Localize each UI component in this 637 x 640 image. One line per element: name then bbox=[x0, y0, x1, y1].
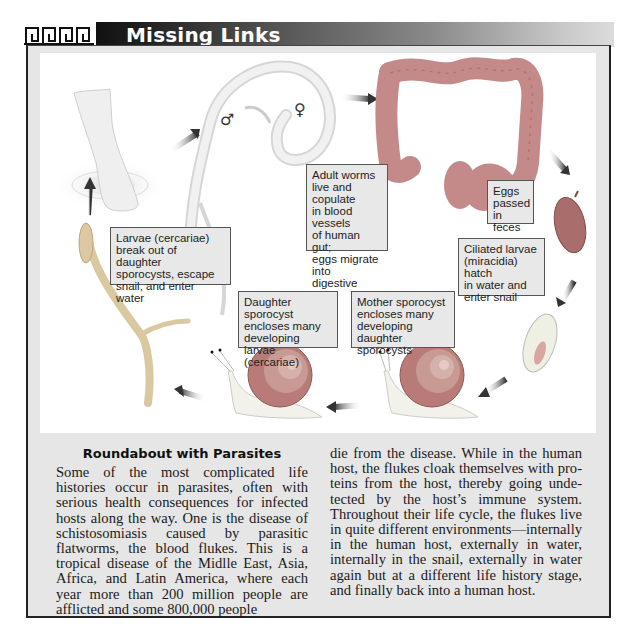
article-column-1: Some of the most complicated life histor… bbox=[56, 465, 308, 617]
section-title: Missing Links bbox=[126, 23, 281, 47]
label-adult-worms: Adult worms live and copulate in blood v… bbox=[306, 164, 388, 251]
miracidium-icon bbox=[516, 310, 563, 376]
female-symbol: ♀ bbox=[294, 100, 306, 119]
title-bar: Missing Links bbox=[96, 22, 614, 47]
section-header: Missing Links bbox=[24, 22, 614, 47]
article-column-2: die from the disease. While in the human… bbox=[330, 446, 582, 598]
male-symbol: ♂ bbox=[220, 110, 234, 129]
greek-meander-icon bbox=[24, 25, 94, 45]
egg-icon bbox=[550, 194, 591, 255]
label-miracidia: Ciliated larvae (miracidia) hatch in wat… bbox=[458, 238, 545, 296]
article-title: Roundabout with Parasites bbox=[56, 446, 308, 461]
label-mother-sporocyst: Mother sporocyst encloses many developin… bbox=[351, 291, 455, 348]
label-cercariae: Larvae (cercariae) break out of daughter… bbox=[110, 227, 231, 285]
label-eggs: Eggs passed in feces bbox=[487, 180, 534, 224]
label-daughter-sporocyst: Daughter sporocyst encloses many develop… bbox=[238, 291, 338, 348]
human-foot-icon bbox=[52, 89, 168, 211]
